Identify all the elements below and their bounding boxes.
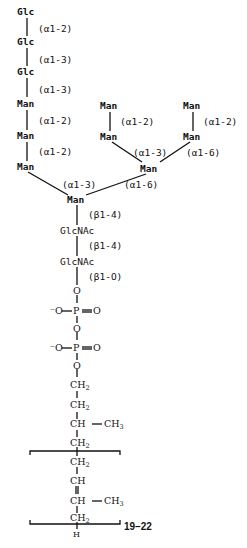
bond-lines: [0, 0, 247, 548]
oxygen-double-2: O: [93, 343, 101, 353]
oxygen-double-1: O: [93, 306, 101, 316]
glcnac-residue-2: GlcNAc: [60, 257, 94, 267]
linkage-branch-left: (α1-3): [133, 148, 167, 158]
linkage-glc3-man: (α1-3): [38, 85, 72, 95]
oxygen-minus-1: ⁻O: [50, 306, 63, 316]
glc-residue-1: Glc: [17, 7, 34, 17]
man-residue-c1: Man: [183, 101, 200, 111]
ch2-h: CH2: [70, 513, 90, 525]
ch2-d: CH2: [70, 438, 90, 450]
ch-c: CH: [70, 419, 86, 429]
dolichol-oligosaccharide-diagram: Glc (α1-2) Glc (α1-3) Glc (α1-3) Man (α1…: [0, 0, 247, 548]
ch2-e: CH2: [70, 457, 90, 469]
oxygen-2: O: [73, 324, 81, 334]
repeat-count: 19–22: [124, 522, 152, 532]
ch3-c: CH3: [104, 419, 124, 431]
man-residue-b1: Man: [100, 101, 117, 111]
man-residue-core: Man: [67, 195, 84, 205]
ch2-a: CH2: [70, 380, 90, 392]
linkage-man-a2-a3: (α1-2): [38, 147, 72, 157]
terminal-h: H: [73, 531, 80, 539]
linkage-glcnac-glcnac: (β1-4): [88, 241, 122, 251]
man-residue-a2: Man: [17, 131, 34, 141]
linkage-core-right: (α1-6): [124, 180, 158, 190]
linkage-glc1-glc2: (α1-2): [38, 24, 72, 34]
man-residue-b2: Man: [100, 132, 117, 142]
linkage-man-c: (α1-2): [203, 117, 237, 127]
ch-g: CH: [70, 496, 86, 506]
glcnac-residue-1: GlcNAc: [60, 226, 94, 236]
oxygen-minus-2: ⁻O: [50, 343, 63, 353]
glc-residue-3: Glc: [17, 67, 34, 77]
phosphorus-2: P: [73, 343, 79, 353]
phosphorus-1: P: [73, 306, 79, 316]
ch-f: CH: [70, 476, 86, 486]
oxygen-1: O: [73, 286, 81, 296]
man-residue-branch: Man: [140, 164, 157, 174]
linkage-man-a1-a2: (α1-2): [38, 116, 72, 126]
linkage-branch-right: (α1-6): [186, 148, 220, 158]
linkage-core-left: (α1-3): [62, 180, 96, 190]
glc-residue-2: Glc: [17, 37, 34, 47]
man-residue-a3: Man: [17, 162, 34, 172]
man-residue-a1: Man: [17, 99, 34, 109]
linkage-glcnac-o: (β1-O): [88, 272, 122, 282]
ch2-b: CH2: [70, 400, 90, 412]
man-residue-c2: Man: [183, 132, 200, 142]
linkage-glc2-glc3: (α1-3): [38, 55, 72, 65]
linkage-man-b: (α1-2): [120, 117, 154, 127]
oxygen-3: O: [73, 361, 81, 371]
linkage-core-glcnac: (β1-4): [88, 210, 122, 220]
ch3-g: CH3: [104, 496, 124, 508]
